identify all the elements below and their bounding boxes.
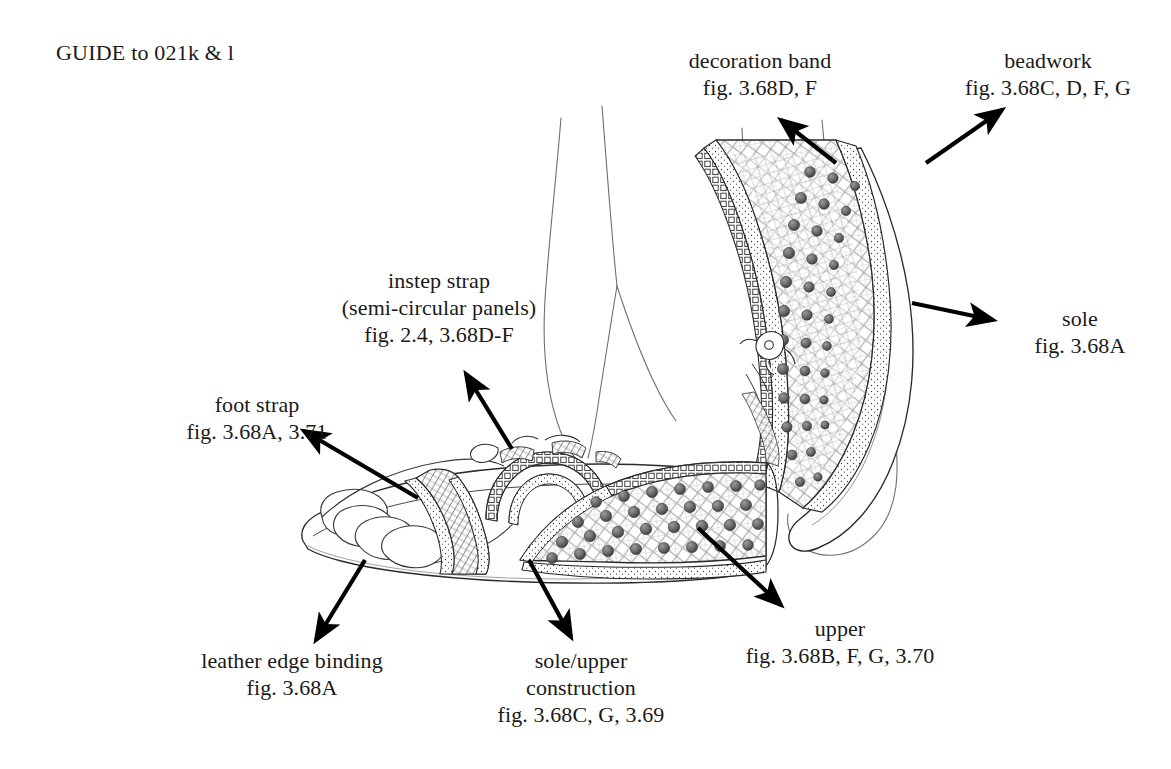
label-beadwork: beadwork fig. 3.68C, D, F, G — [925, 48, 1171, 102]
label-leather-edge-binding-title: leather edge binding — [160, 648, 424, 675]
illustration-page: GUIDE to 021k & l — [0, 0, 1171, 769]
label-upper: upper fig. 3.68B, F, G, 3.70 — [700, 616, 980, 670]
label-foot-strap-title: foot strap — [150, 392, 364, 419]
label-sole-upper-construction-figref: fig. 3.68C, G, 3.69 — [450, 702, 712, 729]
label-instep-strap: instep strap (semi-circular panels) fig.… — [303, 268, 575, 348]
label-sole-upper-construction-title: sole/upper — [450, 648, 712, 675]
label-decoration-band-figref: fig. 3.68D, F — [660, 75, 860, 102]
label-leather-edge-binding: leather edge binding fig. 3.68A — [160, 648, 424, 702]
label-foot-strap-figref: fig. 3.68A, 3.71 — [150, 419, 364, 446]
page-caption: GUIDE to 021k & l — [56, 40, 234, 66]
label-upper-title: upper — [700, 616, 980, 643]
label-upper-figref: fig. 3.68B, F, G, 3.70 — [700, 643, 980, 670]
label-sole-upper-construction: sole/upper construction fig. 3.68C, G, 3… — [450, 648, 712, 728]
label-sole-upper-construction-subtitle: construction — [450, 675, 712, 702]
label-instep-strap-figref: fig. 2.4, 3.68D-F — [303, 322, 575, 349]
label-beadwork-title: beadwork — [925, 48, 1171, 75]
label-leather-edge-binding-figref: fig. 3.68A — [160, 675, 424, 702]
label-decoration-band: decoration band fig. 3.68D, F — [660, 48, 860, 102]
label-foot-strap: foot strap fig. 3.68A, 3.71 — [150, 392, 364, 446]
label-sole: sole fig. 3.68A — [1000, 306, 1160, 360]
label-instep-strap-title: instep strap — [303, 268, 575, 295]
label-sole-figref: fig. 3.68A — [1000, 333, 1160, 360]
label-instep-strap-subtitle: (semi-circular panels) — [303, 295, 575, 322]
label-beadwork-figref: fig. 3.68C, D, F, G — [925, 75, 1171, 102]
label-sole-title: sole — [1000, 306, 1160, 333]
label-decoration-band-title: decoration band — [660, 48, 860, 75]
